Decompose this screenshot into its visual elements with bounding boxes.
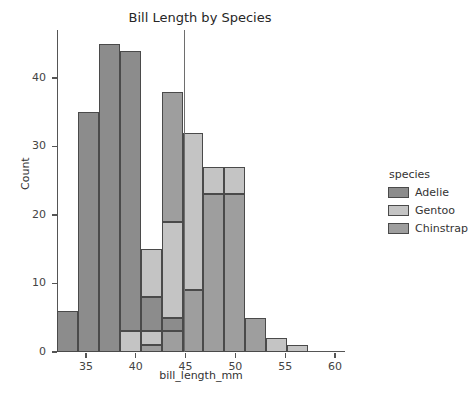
histogram-bar-segment	[78, 112, 99, 352]
legend-item-chinstrap[interactable]: Chinstrap	[388, 222, 470, 235]
histogram-bar-segment	[162, 318, 183, 332]
x-axis-tick	[135, 353, 136, 358]
histogram-bar-segment	[162, 92, 183, 222]
y-axis-tick-label: 10	[12, 276, 46, 289]
histogram-bar-segment	[183, 290, 204, 352]
legend-item-label: Gentoo	[415, 204, 455, 217]
x-axis-tick	[235, 353, 236, 358]
histogram-bar-segment	[141, 331, 162, 345]
histogram-bar-segment	[203, 194, 224, 352]
x-axis-tick	[85, 353, 86, 358]
y-axis-tick-label: 0	[12, 345, 46, 358]
chart-title: Bill Length by Species	[57, 10, 343, 25]
y-axis-tick-label: 30	[12, 139, 46, 152]
x-axis-label: bill_length_mm	[57, 369, 345, 382]
x-axis-tick	[185, 353, 186, 358]
histogram-bar-segment	[183, 133, 204, 291]
histogram-bar-segment	[162, 331, 183, 352]
y-axis-label: Count	[19, 157, 32, 190]
legend-item-gentoo[interactable]: Gentoo	[388, 204, 470, 217]
histogram-bar-segment	[120, 331, 141, 352]
histogram-bar-segment	[120, 51, 141, 332]
histogram-bar-segment	[141, 345, 162, 352]
legend-swatch-icon	[388, 205, 409, 216]
histogram-bar-segment	[162, 222, 183, 318]
histogram-bar-segment	[141, 249, 162, 297]
histogram-bar-segment	[141, 297, 162, 331]
histogram-bar-segment	[224, 167, 245, 194]
x-axis-tick	[334, 353, 335, 358]
x-axis-tick	[285, 353, 286, 358]
legend-title: species	[389, 168, 470, 181]
legend-item-label: Chinstrap	[415, 222, 468, 235]
y-axis-tick-label: 40	[12, 71, 46, 84]
legend-swatch-icon	[388, 187, 409, 198]
histogram-bar-segment	[224, 194, 245, 352]
histogram-bar-segment	[99, 44, 120, 352]
histogram-bar-segment	[287, 345, 308, 352]
legend-item-label: Adelie	[415, 186, 449, 199]
histogram-bar-segment	[245, 318, 266, 352]
histogram-bar-segment	[266, 338, 287, 352]
legend: species AdelieGentooChinstrap	[388, 168, 470, 240]
histogram-bar-segment	[57, 311, 78, 352]
legend-item-adelie[interactable]: Adelie	[388, 186, 470, 199]
annotation-vertical-line	[184, 30, 185, 352]
figure: Bill Length by Species 01020304035404550…	[0, 0, 470, 400]
legend-swatch-icon	[388, 223, 409, 234]
y-axis-tick-label: 20	[12, 208, 46, 221]
histogram-bar-segment	[203, 167, 224, 194]
